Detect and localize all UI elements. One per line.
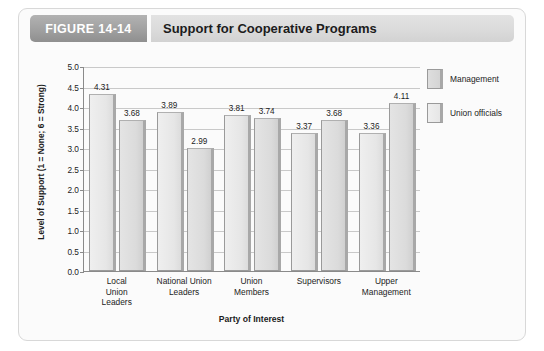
y-tick-mark	[80, 211, 84, 212]
y-tick-mark	[80, 67, 84, 68]
y-tick-mark	[80, 272, 84, 273]
figure-number-tab: FIGURE 14-14	[30, 15, 147, 42]
bar-value-label: 4.31	[94, 83, 110, 92]
x-category-line: Leaders	[73, 297, 160, 308]
y-tick-label: 1.5	[67, 206, 79, 216]
bar-value-label: 3.81	[229, 104, 245, 113]
y-tick-mark	[80, 170, 84, 171]
y-tick-label: 5.0	[67, 62, 79, 72]
figure-number-label: FIGURE 14-14	[45, 22, 131, 36]
bar-value-label: 2.99	[191, 137, 207, 146]
y-tick-mark	[80, 88, 84, 89]
bar	[359, 133, 386, 271]
figure-header: FIGURE 14-14 Support for Cooperative Pro…	[30, 15, 514, 42]
chart-area: Level of Support (1 = None; 6 = Strong) …	[19, 42, 525, 340]
legend-label: Management	[450, 74, 499, 84]
y-tick-label: 1.0	[67, 226, 79, 236]
bar-value-label: 3.89	[161, 101, 177, 110]
y-tick-label: 3.5	[67, 124, 79, 134]
y-tick-mark	[80, 252, 84, 253]
bar-value-label: 3.68	[326, 109, 342, 118]
x-category-line: Upper	[343, 276, 430, 287]
bar-value-label: 3.36	[364, 122, 380, 131]
bar-value-label: 3.37	[296, 122, 312, 131]
figure-title-bar: Support for Cooperative Programs	[151, 15, 514, 42]
x-category-label: UpperManagement	[343, 276, 430, 297]
legend-item: Union officials	[427, 103, 502, 123]
legend-label: Union officials	[450, 108, 502, 118]
y-tick-label: 4.5	[67, 83, 79, 93]
bar	[291, 133, 318, 271]
plot-area: 5.04.54.03.53.02.52.01.51.00.50.04.313.6…	[83, 67, 420, 272]
bar	[187, 148, 214, 271]
chart-legend: ManagementUnion officials	[427, 69, 502, 137]
y-tick-label: 2.0	[67, 185, 79, 195]
y-tick-label: 4.0	[67, 103, 79, 113]
y-tick-label: 2.5	[67, 165, 79, 175]
bar-value-label: 3.68	[124, 109, 140, 118]
bar-value-label: 4.11	[394, 92, 409, 101]
figure-title: Support for Cooperative Programs	[151, 21, 377, 36]
bar	[321, 120, 348, 271]
bar-value-label: 3.74	[259, 107, 275, 116]
legend-item: Management	[427, 69, 502, 89]
bar	[119, 120, 146, 271]
y-tick-label: 3.0	[67, 144, 79, 154]
gridline	[84, 88, 420, 89]
y-tick-mark	[80, 149, 84, 150]
y-tick-label: 0.5	[67, 247, 79, 257]
bar	[157, 112, 184, 271]
figure-card: FIGURE 14-14 Support for Cooperative Pro…	[18, 8, 526, 341]
legend-swatch	[427, 69, 443, 89]
bar	[224, 115, 251, 271]
bar	[254, 118, 281, 271]
legend-swatch	[427, 103, 443, 123]
x-category-line: Management	[343, 287, 430, 298]
gridline	[84, 67, 420, 68]
bar	[389, 103, 416, 272]
x-category-line: Members	[208, 287, 295, 298]
y-axis-title: Level of Support (1 = None; 6 = Strong)	[36, 62, 46, 262]
bar	[89, 94, 116, 271]
y-tick-mark	[80, 190, 84, 191]
y-tick-mark	[80, 129, 84, 130]
x-axis-title: Party of Interest	[83, 314, 420, 324]
y-tick-mark	[80, 108, 84, 109]
y-tick-mark	[80, 231, 84, 232]
